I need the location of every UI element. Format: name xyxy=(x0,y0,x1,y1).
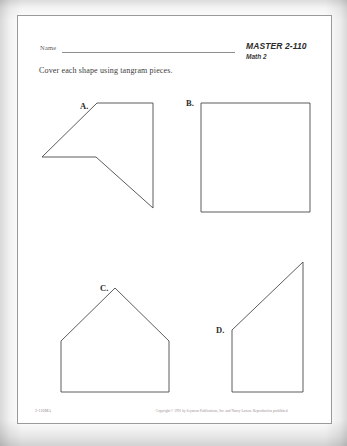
shapes-canvas xyxy=(0,0,347,446)
footer-copyright: Copyright © 1991 by Seymour Publications… xyxy=(122,409,322,413)
shape-a-arrow-polygon xyxy=(42,103,153,208)
worksheet-page: Name MASTER 2-110 Math 2 Cover each shap… xyxy=(0,0,347,446)
shape-label-d: D. xyxy=(216,325,224,335)
shape-label-c: C. xyxy=(100,283,108,293)
shape-d-right-trapezoid xyxy=(232,262,303,392)
shape-c-house-pentagon xyxy=(61,288,169,392)
footer-master-code: 2-110MA xyxy=(35,408,51,413)
shape-b-square xyxy=(201,103,310,212)
shape-label-a: A. xyxy=(80,101,88,111)
shape-label-b: B. xyxy=(186,98,194,108)
